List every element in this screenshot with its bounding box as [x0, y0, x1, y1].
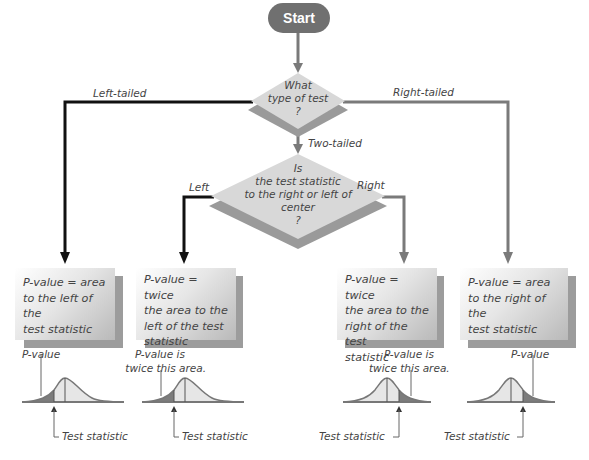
outcome-line: to the right of the — [468, 291, 562, 322]
curve-area-label: twice this area. — [369, 361, 459, 375]
decision-side-text: Is the test statistic to the right or le… — [228, 162, 368, 227]
label-two-tailed: Two-tailed — [308, 137, 362, 149]
outcome-box-right-tailed: P-value = area to the right of the test … — [460, 268, 568, 340]
curve-area-label: P-value — [511, 347, 549, 361]
decision-line: What — [248, 79, 348, 92]
decision-test-type-text: What type of test ? — [248, 79, 348, 118]
outcome-line: P-value = twice — [345, 272, 431, 303]
curve-area-label: twice this area. — [118, 361, 206, 375]
curve-label-twice-area-right: P-value is twice this area. — [369, 347, 459, 375]
curve-label-p-value-right: P-value — [511, 347, 549, 361]
outcome-line: test statistic — [468, 322, 562, 338]
right-connector — [382, 197, 409, 264]
curve-area-label: P-value is — [118, 347, 206, 361]
normal-curve-left-tailed — [22, 355, 124, 437]
curve-area-label: P-value — [22, 347, 60, 361]
normal-curve-right-tailed — [467, 355, 555, 437]
decision-line: to the right or left of — [228, 188, 368, 201]
outcome-line: right of the test — [345, 319, 431, 350]
label-right: Right — [357, 179, 385, 191]
outcome-line: test statistic — [23, 322, 109, 338]
decision-line: center — [228, 201, 368, 214]
decision-line: ? — [228, 214, 368, 227]
left-connector — [179, 197, 214, 264]
start-terminal: Start — [268, 3, 330, 33]
normal-curve-two-tailed-left — [142, 370, 244, 437]
curve-area-label: P-value is — [369, 347, 459, 361]
test-statistic-label: Test statistic — [444, 430, 510, 442]
left-tailed-connector — [60, 102, 253, 264]
decision-line: type of test — [248, 92, 348, 105]
decision-line: ? — [248, 105, 348, 118]
test-statistic-label: Test statistic — [182, 430, 248, 442]
curve-label-twice-area-left: P-value is twice this area. — [118, 347, 206, 375]
decision-line: the test statistic — [228, 175, 368, 188]
outcome-line: the area to the — [345, 303, 431, 319]
outcome-box-two-tailed-left: P-value = twice the area to the left of … — [136, 268, 236, 340]
outcome-line: P-value = twice — [144, 272, 230, 303]
label-right-tailed: Right-tailed — [393, 86, 454, 98]
outcome-box-two-tailed-right: P-value = twice the area to the right of… — [337, 268, 437, 340]
outcome-box-left-tailed: P-value = area to the left of the test s… — [15, 268, 115, 340]
normal-curve-two-tailed-right — [343, 370, 431, 437]
label-left: Left — [189, 181, 209, 193]
decision-line: Is — [228, 162, 368, 175]
outcome-line: left of the test — [144, 319, 230, 335]
outcome-line: to the left of the — [23, 291, 109, 322]
test-statistic-label: Test statistic — [319, 430, 385, 442]
test-statistic-label: Test statistic — [62, 430, 128, 442]
label-left-tailed: Left-tailed — [93, 87, 146, 99]
outcome-line: P-value = area — [23, 275, 109, 291]
flowchart-connectors — [0, 0, 589, 460]
outcome-line: the area to the — [144, 303, 230, 319]
outcome-line: P-value = area — [468, 275, 562, 291]
arrow-start-to-decision — [293, 33, 303, 73]
curve-label-p-value: P-value — [22, 347, 60, 361]
